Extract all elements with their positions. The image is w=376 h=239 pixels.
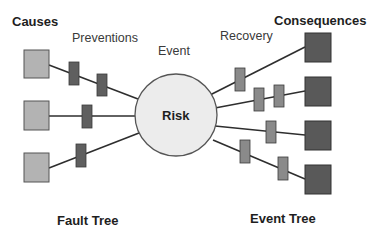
cause-connector-line [49, 65, 138, 99]
consequences-heading: Consequences [274, 14, 366, 27]
prevention-barrier [97, 74, 107, 96]
cause-1-box [24, 50, 49, 78]
prevention-barrier [76, 144, 86, 167]
prevention-barriers [69, 62, 107, 167]
recovery-barrier [254, 88, 264, 111]
consequence-boxes [305, 33, 331, 194]
recovery-label: Recovery [220, 30, 273, 43]
recovery-barriers [235, 68, 288, 180]
recovery-barrier [240, 140, 250, 163]
prevention-barrier [82, 105, 92, 128]
event-label: Event [158, 45, 190, 58]
consequence-2-box [305, 77, 331, 106]
consequence-connector-line [215, 126, 305, 135]
recovery-barrier [274, 85, 284, 107]
risk-label: Risk [162, 109, 189, 122]
cause-connector-line [49, 133, 139, 168]
bowtie-diagram: Causes Preventions Event Recovery Conseq… [0, 0, 376, 239]
consequence-4-box [305, 165, 331, 194]
fault-tree-label: Fault Tree [57, 214, 118, 227]
cause-3-box [24, 153, 49, 182]
event-tree-label: Event Tree [250, 212, 316, 225]
recovery-barrier [266, 121, 276, 143]
recovery-barrier [278, 157, 288, 180]
recovery-barrier [235, 68, 245, 91]
prevention-barrier [69, 62, 79, 85]
cause-boxes [24, 50, 49, 182]
causes-heading: Causes [12, 15, 58, 28]
preventions-label: Preventions [72, 32, 138, 45]
consequence-1-box [305, 33, 331, 62]
consequence-3-box [305, 121, 331, 150]
cause-2-box [24, 101, 49, 130]
consequence-connector-line [213, 140, 305, 179]
